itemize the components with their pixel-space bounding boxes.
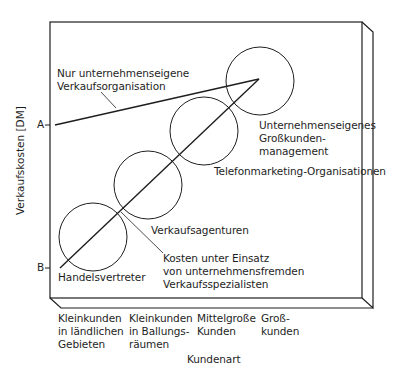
- x-category-4: Groß- kunden: [261, 312, 299, 338]
- x-category-1: Kleinkunden in ländlichen Gebieten: [58, 312, 124, 351]
- label-handelsvertreter: Handelsvertreter: [58, 271, 145, 284]
- y-axis-label: Verkaufskosten [DM]: [14, 106, 26, 215]
- label-verkaufsagenturen: Verkaufsagenturen: [151, 224, 249, 237]
- x-category-2: Kleinkunden in Ballungs- räumen: [129, 312, 193, 351]
- own-org-pointer: [101, 92, 116, 108]
- x-axis-label: Kundenart: [187, 353, 240, 366]
- marker-b: B: [37, 261, 44, 274]
- circle-grosskunden-management: [226, 47, 294, 115]
- marker-a: A: [37, 118, 44, 131]
- x-category-3: Mittelgroße Kunden: [197, 312, 256, 338]
- label-grosskunden-management: Unternehmenseigenes Großkunden- manageme…: [259, 119, 376, 158]
- external-annotation: Kosten unter Einsatz von unternehmensfre…: [163, 252, 304, 291]
- label-telefonmarketing: Telefonmarketing-Organisationen: [214, 165, 386, 178]
- own-org-annotation: Nur unternehmenseigene Verkaufsorganisat…: [57, 67, 189, 93]
